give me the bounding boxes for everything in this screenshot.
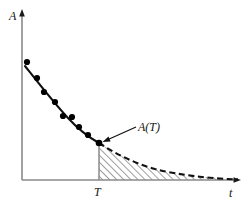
- x-tick-label-T: T: [94, 185, 102, 199]
- decay-curve-figure: A t T A(T): [0, 0, 248, 206]
- data-point: [52, 99, 58, 105]
- hatched-area-under-curve: [99, 140, 241, 181]
- figure-canvas: A t T A(T): [0, 0, 248, 206]
- data-point: [69, 114, 75, 120]
- data-point: [60, 113, 66, 119]
- data-point: [76, 124, 82, 130]
- data-point-at-T: [96, 140, 103, 147]
- y-axis: [19, 9, 25, 180]
- data-point: [85, 132, 91, 138]
- annotation-arrowhead: [103, 137, 111, 142]
- y-axis-arrowhead: [19, 9, 25, 17]
- data-point: [41, 89, 47, 95]
- annotation-arrow: [103, 127, 137, 142]
- annotation-label-AT: A(T): [137, 120, 160, 134]
- data-point: [34, 75, 40, 81]
- y-axis-label: A: [8, 9, 17, 23]
- data-point: [24, 59, 30, 65]
- x-axis-label: t: [229, 186, 233, 200]
- data-point-group: [24, 59, 102, 146]
